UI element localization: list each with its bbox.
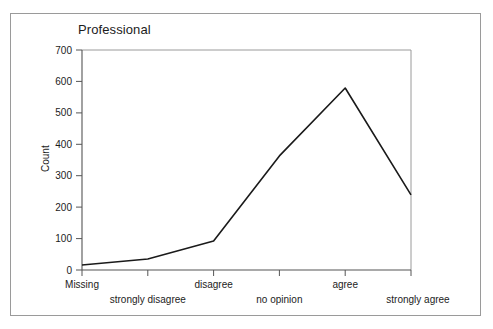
figure-canvas: Professional Count 0 100 200 300 400 500… — [0, 0, 493, 329]
x-tick-label-agree: agree — [332, 279, 358, 290]
line-chart-plot: 0 100 200 300 400 500 600 700 Missing st… — [0, 0, 493, 329]
y-tick-label-0: 0 — [66, 265, 72, 276]
x-tick-label-disagree: disagree — [194, 279, 233, 290]
y-tick-label-500: 500 — [55, 107, 72, 118]
x-tick-label-strongly-agree: strongly agree — [386, 294, 450, 305]
y-tick-label-300: 300 — [55, 170, 72, 181]
y-tick-label-200: 200 — [55, 202, 72, 213]
data-series-line — [82, 88, 411, 265]
x-tick-label-missing: Missing — [65, 279, 99, 290]
plot-frame — [82, 50, 411, 270]
y-axis-ticks: 0 100 200 300 400 500 600 700 — [55, 45, 82, 276]
x-tick-label-strongly-disagree: strongly disagree — [110, 294, 187, 305]
y-tick-label-400: 400 — [55, 139, 72, 150]
y-tick-label-100: 100 — [55, 233, 72, 244]
y-tick-label-700: 700 — [55, 45, 72, 56]
y-tick-label-600: 600 — [55, 76, 72, 87]
x-tick-label-no-opinion: no opinion — [256, 294, 302, 305]
x-axis-ticks: Missing strongly disagree disagree no op… — [65, 270, 450, 305]
